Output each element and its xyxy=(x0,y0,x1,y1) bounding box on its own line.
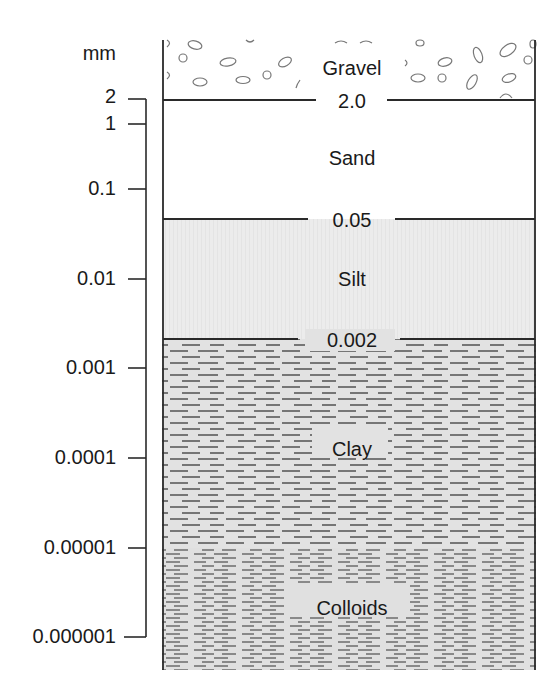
diagram-graphics xyxy=(0,0,556,690)
zone-label-colloids: Colloids xyxy=(272,597,432,619)
boundary-label-2-0: 2.0 xyxy=(312,90,392,112)
size-scale-axis xyxy=(124,99,146,637)
boundary-label-0-05: 0.05 xyxy=(312,209,392,231)
zone-label-clay: Clay xyxy=(272,438,432,460)
boundary-label-0-002: 0.002 xyxy=(312,329,392,351)
zone-label-gravel: Gravel xyxy=(272,57,432,79)
zone-label-sand: Sand xyxy=(272,147,432,169)
zone-label-silt: Silt xyxy=(272,268,432,290)
soil-particle-size-diagram: mm 2 1 0.1 0.01 0.001 0.0001 0.00001 0.0… xyxy=(0,0,556,690)
